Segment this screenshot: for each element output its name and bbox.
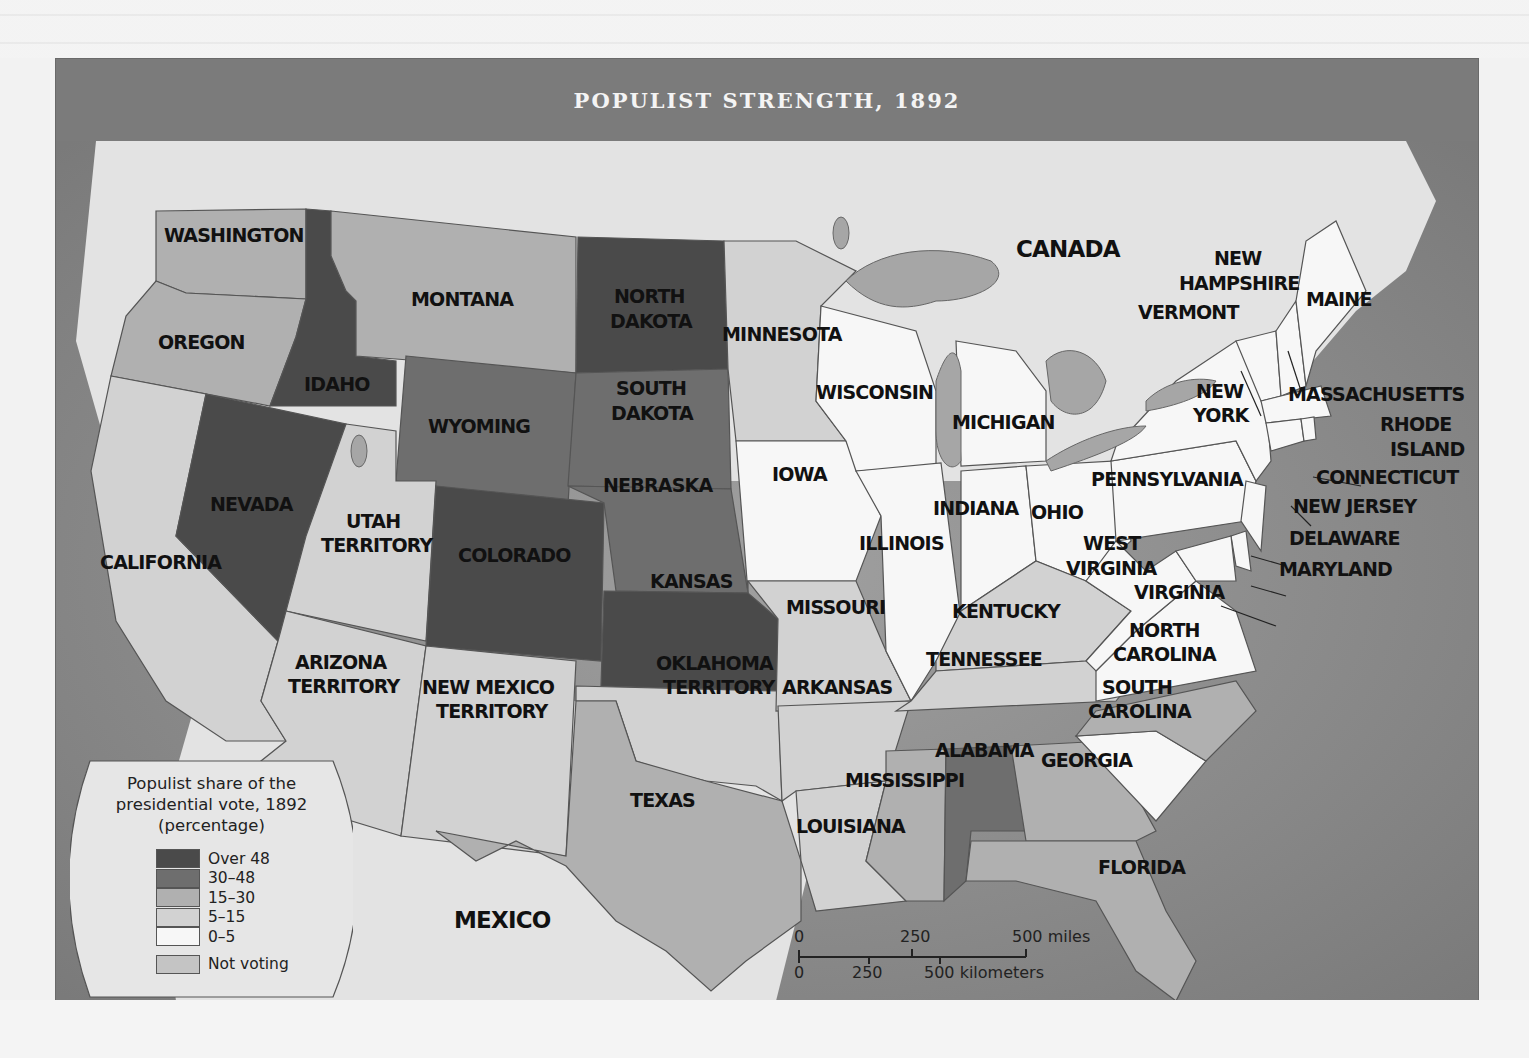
label-utah-1: UTAH: [346, 510, 400, 532]
label-arkansas: ARKANSAS: [782, 676, 892, 698]
label-illinois: ILLINOIS: [859, 532, 944, 554]
label-north-dakota-2: DAKOTA: [610, 310, 693, 332]
label-new-mexico-2: TERRITORY: [436, 700, 549, 722]
label-south-carolina-2: CAROLINA: [1088, 700, 1192, 722]
legend-label: 5–15: [208, 908, 245, 926]
legend-swatch: [156, 908, 200, 927]
label-new-york-1: NEW: [1196, 380, 1244, 402]
label-mississippi: MISSISSIPPI: [845, 769, 964, 791]
scale-miles-250: 250: [900, 927, 931, 946]
label-rhode-island-1: RHODE: [1380, 413, 1451, 435]
label-connecticut: CONNECTICUT: [1316, 466, 1459, 488]
legend-label: 0–5: [208, 928, 235, 946]
label-minnesota: MINNESOTA: [722, 323, 843, 345]
legend-swatch: [156, 955, 200, 974]
map-title-bar: POPULIST STRENGTH, 1892: [56, 59, 1478, 141]
scale-miles-0: 0: [794, 927, 804, 946]
label-california: CALIFORNIA: [100, 551, 222, 573]
legend-swatch: [156, 927, 200, 946]
label-michigan: MICHIGAN: [952, 411, 1055, 433]
legend-swatch: [156, 869, 200, 888]
legend-label: 30–48: [208, 869, 255, 887]
page-text-bleed: [0, 0, 1529, 58]
label-missouri: MISSOURI: [786, 596, 885, 618]
great-salt-lake: [351, 435, 367, 467]
label-south-dakota-1: SOUTH: [616, 377, 686, 399]
label-south-carolina-1: SOUTH: [1102, 676, 1172, 698]
legend-item-30-48: 30–48: [156, 869, 289, 889]
label-alabama: ALABAMA: [935, 739, 1035, 761]
legend-item-over-48: Over 48: [156, 849, 289, 869]
label-pennsylvania: PENNSYLVANIA: [1091, 468, 1244, 490]
label-iowa: IOWA: [772, 463, 828, 485]
label-texas: TEXAS: [630, 789, 695, 811]
label-maine: MAINE: [1306, 288, 1372, 310]
scale-miles-500: 500 miles: [1012, 927, 1090, 946]
label-north-dakota-1: NORTH: [614, 285, 685, 307]
legend-item-5-15: 5–15: [156, 908, 289, 928]
label-oklahoma-1: OKLAHOMA: [656, 652, 774, 674]
label-rhode-island-2: ISLAND: [1390, 438, 1464, 460]
label-oklahoma-2: TERRITORY: [663, 676, 776, 698]
map-figure: POPULIST STRENGTH, 1892: [55, 58, 1479, 1002]
page-bottom-margin: [0, 1000, 1529, 1058]
label-arizona-1: ARIZONA: [295, 651, 387, 673]
scale-km-0: 0: [794, 963, 804, 982]
label-delaware: DELAWARE: [1289, 527, 1400, 549]
map-legend: Populist share of the presidential vote,…: [70, 759, 353, 999]
label-washington: WASHINGTON: [164, 224, 304, 246]
label-wyoming: WYOMING: [428, 415, 530, 437]
label-new-mexico-1: NEW MEXICO: [422, 676, 555, 698]
label-oregon: OREGON: [158, 331, 245, 353]
legend-title: Populist share of the presidential vote,…: [70, 773, 353, 836]
label-south-dakota-2: DAKOTA: [611, 402, 694, 424]
legend-items: Over 48 30–48 15–30 5–15 0–5 Not voting: [156, 849, 289, 974]
legend-title-line-2: presidential vote, 1892: [70, 794, 353, 815]
label-west-virginia-2: VIRGINIA: [1066, 557, 1157, 579]
legend-item-15-30: 15–30: [156, 888, 289, 908]
legend-swatch: [156, 888, 200, 907]
label-ohio: OHIO: [1031, 501, 1084, 523]
state-washington[interactable]: [156, 209, 306, 299]
label-massachusetts: MASSACHUSETTS: [1288, 383, 1465, 405]
lake-michigan: [936, 353, 961, 467]
map-title: POPULIST STRENGTH, 1892: [574, 88, 961, 113]
legend-label: Over 48: [208, 850, 270, 868]
label-virginia: VIRGINIA: [1134, 581, 1225, 603]
label-vermont: VERMONT: [1138, 301, 1239, 323]
label-north-carolina-1: NORTH: [1129, 619, 1200, 641]
legend-item-not-voting: Not voting: [156, 955, 289, 975]
label-new-york-2: YORK: [1192, 404, 1250, 426]
scale-km-500: 500 kilometers: [924, 963, 1044, 982]
state-rhode-island[interactable]: [1301, 417, 1316, 441]
label-arizona-2: TERRITORY: [288, 675, 401, 697]
legend-label: Not voting: [208, 955, 289, 973]
label-idaho: IDAHO: [304, 373, 370, 395]
label-georgia: GEORGIA: [1041, 749, 1133, 771]
label-north-carolina-2: CAROLINA: [1113, 643, 1217, 665]
legend-item-0-5: 0–5: [156, 927, 289, 947]
label-new-hampshire-1: NEW: [1214, 247, 1262, 269]
label-montana: MONTANA: [411, 288, 514, 310]
label-west-virginia-1: WEST: [1083, 532, 1141, 554]
label-florida: FLORIDA: [1098, 856, 1186, 878]
legend-swatch: [156, 849, 200, 868]
lake-winnipeg-tip: [833, 217, 849, 249]
legend-label: 15–30: [208, 889, 255, 907]
label-new-hampshire-2: HAMPSHIRE: [1179, 272, 1300, 294]
label-canada: CANADA: [1016, 236, 1121, 262]
label-nevada: NEVADA: [210, 493, 294, 515]
legend-title-line-3: (percentage): [70, 815, 353, 836]
state-colorado[interactable]: [426, 486, 604, 661]
label-maryland: MARYLAND: [1279, 558, 1392, 580]
label-tennessee: TENNESSEE: [926, 648, 1042, 670]
label-kansas: KANSAS: [650, 570, 733, 592]
scale-bar: 0 250 500 miles 0 250 500 kilometers: [794, 927, 1114, 987]
label-nebraska: NEBRASKA: [603, 474, 714, 496]
label-kentucky: KENTUCKY: [952, 600, 1061, 622]
label-louisiana: LOUISIANA: [796, 815, 906, 837]
label-mexico: MEXICO: [454, 907, 551, 933]
label-colorado: COLORADO: [458, 544, 571, 566]
label-indiana: INDIANA: [933, 497, 1020, 519]
label-wisconsin: WISCONSIN: [816, 381, 933, 403]
